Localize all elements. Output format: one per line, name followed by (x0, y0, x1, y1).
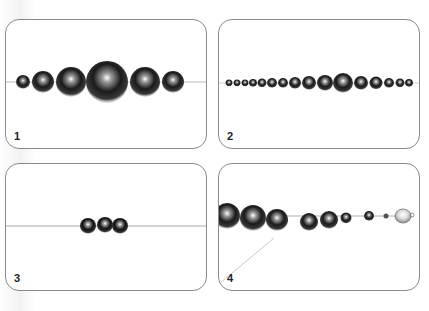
step-number: 3 (14, 272, 20, 284)
bead-strand-illustration (6, 20, 207, 149)
step-panel-4: 4 (218, 163, 420, 291)
bead-strand-illustration (6, 164, 207, 291)
step-number: 4 (227, 272, 233, 284)
step-number: 1 (14, 130, 20, 142)
bead-strand-illustration (219, 20, 420, 149)
step-number: 2 (227, 130, 233, 142)
clasp-icon (395, 209, 411, 223)
step-panel-1: 1 (5, 19, 207, 149)
step-panel-3: 3 (5, 163, 207, 291)
bead-strand-illustration (219, 164, 420, 291)
step-panel-2: 2 (218, 19, 420, 149)
